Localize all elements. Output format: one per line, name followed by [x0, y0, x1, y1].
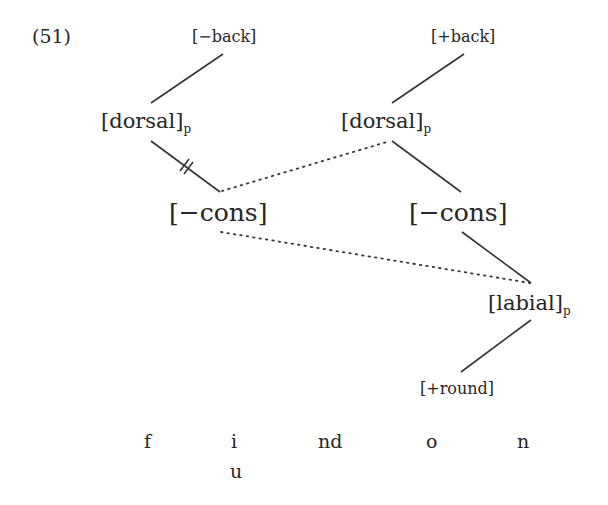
segment-o: o — [426, 432, 437, 451]
line-dorsal-right-to-cons-right — [392, 141, 461, 192]
line-plus-back-to-dorsal-right — [392, 54, 464, 103]
segment-u: u — [230, 462, 242, 481]
line-labial-to-plus-round — [461, 320, 531, 372]
node-dorsal-left-subscript: p — [184, 122, 192, 136]
line-cons-right-to-labial — [462, 232, 531, 283]
segment-f: f — [144, 432, 151, 451]
node-dorsal-right: [dorsal]p — [341, 111, 431, 135]
dotted-line-cons-left-to-labial — [221, 232, 530, 283]
segment-n: n — [517, 432, 529, 451]
node-cons-right: [−cons] — [409, 200, 507, 225]
node-dorsal-right-label: [dorsal] — [341, 109, 424, 133]
feature-minus-back: [−back] — [192, 29, 256, 45]
segment-nd: nd — [318, 432, 342, 451]
node-labial: [labial]p — [488, 293, 571, 317]
node-dorsal-left-label: [dorsal] — [101, 109, 184, 133]
example-number: (51) — [32, 27, 71, 46]
feature-plus-back: [+back] — [431, 29, 495, 45]
node-labial-subscript: p — [563, 304, 571, 318]
segment-i: i — [231, 432, 237, 451]
node-labial-label: [labial] — [488, 291, 563, 315]
node-dorsal-left: [dorsal]p — [101, 111, 191, 135]
node-dorsal-right-subscript: p — [424, 122, 432, 136]
line-minus-back-to-dorsal-left — [151, 54, 223, 103]
dotted-line-dorsal-right-to-cons-left — [222, 141, 390, 191]
node-cons-left: [−cons] — [169, 200, 267, 225]
line-dorsal-left-to-cons-left — [151, 141, 220, 192]
feature-plus-round: [+round] — [420, 381, 494, 397]
